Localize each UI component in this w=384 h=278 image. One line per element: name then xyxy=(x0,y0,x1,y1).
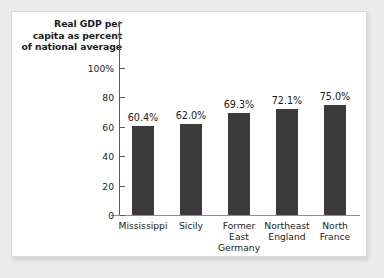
chart-card: Real GDP per capita as percent of nation… xyxy=(11,11,367,257)
bar-mississippi[interactable] xyxy=(132,126,154,215)
x-axis-line xyxy=(111,215,360,216)
bar-north-france[interactable] xyxy=(324,105,346,215)
x-category-line: France xyxy=(297,231,373,242)
y-tick-label-60: 60 xyxy=(54,123,114,132)
x-category-label-north-france: North France xyxy=(297,220,373,242)
bar-value-sicily: 62.0% xyxy=(161,111,221,121)
y-tick-label-100: 100% xyxy=(54,64,114,73)
y-axis-title-line-3: of national average xyxy=(18,41,122,53)
bar-northeast-england[interactable] xyxy=(276,109,298,215)
bar-value-north-france: 75.0% xyxy=(305,92,365,102)
y-tick-label-80: 80 xyxy=(54,93,114,102)
x-category-line: Germany xyxy=(201,242,277,253)
y-tick-mark-60 xyxy=(120,127,125,128)
y-tick-mark-20 xyxy=(120,186,125,187)
figure-root: Real GDP per capita as percent of nation… xyxy=(0,0,384,278)
y-tick-mark-40 xyxy=(120,156,125,157)
bar-former-east-germany[interactable] xyxy=(228,113,250,215)
y-tick-mark-100 xyxy=(120,68,125,69)
y-axis-title-line-1: Real GDP per xyxy=(18,18,122,30)
plot-area: Real GDP per capita as percent of nation… xyxy=(12,12,368,258)
y-tick-label-40: 40 xyxy=(54,152,114,161)
x-category-line: North xyxy=(297,220,373,231)
y-tick-mark-80 xyxy=(120,97,125,98)
y-tick-label-0: 0 xyxy=(54,211,114,220)
y-tick-mark-0 xyxy=(120,215,125,216)
bar-sicily[interactable] xyxy=(180,124,202,215)
y-tick-label-20: 20 xyxy=(54,182,114,191)
y-axis-title: Real GDP per capita as percent of nation… xyxy=(18,18,122,53)
y-axis-title-line-2: capita as percent xyxy=(18,30,122,42)
